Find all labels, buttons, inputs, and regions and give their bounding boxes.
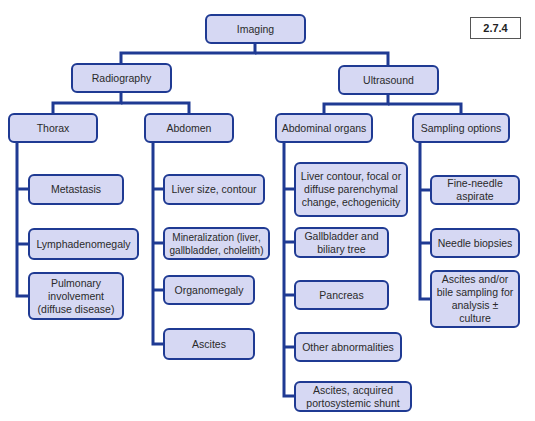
node-label: Lymphadenomegaly <box>36 238 130 251</box>
node-ascites: Ascites <box>163 328 255 360</box>
node-label: Organomegaly <box>175 284 244 297</box>
node-radiography: Radiography <box>71 63 172 93</box>
node-label: Radiography <box>92 72 152 85</box>
node-label: Liver contour, focal or diffuse parenchy… <box>301 170 401 209</box>
node-thorax: Thorax <box>8 113 98 143</box>
node-gallbladder: Gallbladder and biliary tree <box>294 227 389 258</box>
node-label: Ultrasound <box>363 74 414 87</box>
node-abdominal-organs: Abdominal organs <box>275 113 373 143</box>
node-organomegaly: Organomegaly <box>163 275 255 305</box>
node-label: Liver size, contour <box>171 183 256 196</box>
node-label: Gallbladder and biliary tree <box>304 230 378 256</box>
node-label: Other abnormalities <box>302 341 394 354</box>
node-label: Imaging <box>237 23 274 36</box>
node-label: Ascites <box>192 338 226 351</box>
node-label: Mineralization (liver, gallbladder, chol… <box>170 231 264 257</box>
node-label: Pancreas <box>319 289 363 302</box>
node-label: Ascites and/or bile sampling for analysi… <box>436 273 514 325</box>
node-mineralization: Mineralization (liver, gallbladder, chol… <box>163 227 270 260</box>
node-liver-size: Liver size, contour <box>163 174 265 205</box>
node-liver-contour: Liver contour, focal or diffuse parenchy… <box>294 162 408 217</box>
imaging-flowchart: 2.7.4 Imaging Radiography Ultrasound Tho… <box>0 0 535 421</box>
figure-label: 2.7.4 <box>470 17 521 39</box>
node-label: Needle biopsies <box>438 237 513 250</box>
node-ultrasound: Ultrasound <box>338 65 439 95</box>
node-other-abnormalities: Other abnormalities <box>294 332 402 362</box>
node-fine-needle-aspirate: Fine-needle aspirate <box>430 175 520 205</box>
node-ascites-bile-sampling: Ascites and/or bile sampling for analysi… <box>430 270 520 328</box>
node-label: Metastasis <box>51 183 101 196</box>
node-label: Abdomen <box>167 122 212 135</box>
node-label: Pulmonary involvement (diffuse disease) <box>38 277 115 316</box>
node-imaging: Imaging <box>205 14 306 44</box>
node-ascites-shunt: Ascites, acquired portosystemic shunt <box>294 381 412 412</box>
node-pancreas: Pancreas <box>294 280 389 310</box>
node-label: Fine-needle aspirate <box>447 177 502 203</box>
node-label: Ascites, acquired portosystemic shunt <box>306 384 399 410</box>
node-label: Sampling options <box>421 122 502 135</box>
node-sampling-options: Sampling options <box>412 113 510 143</box>
node-abdomen: Abdomen <box>144 113 234 143</box>
node-lymphadenomegaly: Lymphadenomegaly <box>28 228 139 260</box>
node-pulmonary-involvement: Pulmonary involvement (diffuse disease) <box>28 272 124 320</box>
node-label: Abdominal organs <box>282 122 367 135</box>
node-needle-biopsies: Needle biopsies <box>430 228 520 258</box>
node-metastasis: Metastasis <box>28 174 124 205</box>
node-label: Thorax <box>37 122 70 135</box>
